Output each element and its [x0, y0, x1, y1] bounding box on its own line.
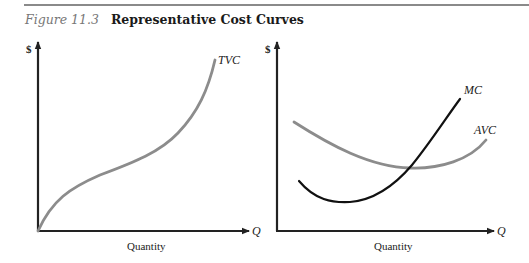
right-x-axis-end-label: Q — [497, 224, 506, 238]
cost-curves-figure: $ Q Quantity TVC $ Q Quantity MC AVC — [0, 0, 529, 263]
right-y-axis-label: $ — [265, 43, 271, 55]
left-chart: $ Q Quantity TVC — [26, 42, 261, 252]
left-y-axis-label: $ — [26, 43, 32, 55]
left-x-axis-label: Quantity — [127, 240, 166, 252]
left-x-axis-end-label: Q — [252, 224, 261, 238]
avc-curve — [294, 122, 486, 168]
tvc-curve — [38, 60, 215, 231]
mc-label: MC — [463, 83, 483, 97]
right-chart: $ Q Quantity MC AVC — [265, 42, 506, 252]
right-x-axis-label: Quantity — [374, 240, 413, 252]
mc-curve — [299, 99, 460, 202]
tvc-label: TVC — [218, 53, 241, 67]
avc-label: AVC — [473, 123, 497, 137]
